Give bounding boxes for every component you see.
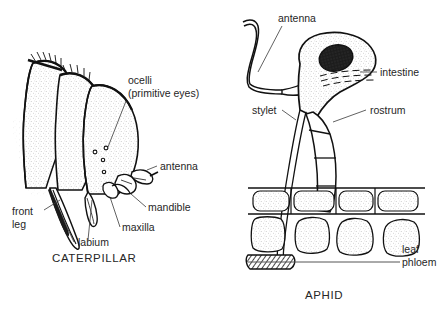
front-leg-label-line2: leg bbox=[12, 218, 26, 230]
epidermis-cell bbox=[294, 191, 334, 211]
labium-label: labium bbox=[78, 236, 109, 248]
stylet-label: stylet bbox=[252, 104, 277, 116]
aphid-caption: APHID bbox=[305, 289, 343, 301]
rostrum-label: rostrum bbox=[370, 104, 406, 116]
ocelli-label-line2: (primitive eyes) bbox=[128, 87, 199, 99]
caterpillar-antenna-label: antenna bbox=[160, 160, 198, 172]
epidermis-cell bbox=[339, 191, 373, 211]
mandible-label: mandible bbox=[148, 201, 191, 213]
mesophyll-cell bbox=[251, 217, 285, 252]
leaf-phloem-label-line1: leaf bbox=[402, 243, 419, 255]
caterpillar-caption: CATERPILLAR bbox=[52, 252, 136, 264]
front-leg-label-line1: front bbox=[12, 205, 33, 217]
aphid-antenna-label: antenna bbox=[278, 12, 316, 24]
epidermis-cell bbox=[378, 191, 418, 211]
mesophyll-cell bbox=[337, 218, 373, 255]
leaf-phloem-label-line2: phloem bbox=[402, 256, 437, 268]
leaf-epidermis-layer bbox=[248, 188, 425, 214]
ocelli-label-line1: ocelli bbox=[128, 74, 152, 86]
maxilla-label: maxilla bbox=[122, 221, 155, 233]
epidermis-cell bbox=[253, 191, 289, 211]
insect-mouthparts-figure: ocelli (primitive eyes) antenna mandible… bbox=[0, 0, 445, 312]
intestine-label: intestine bbox=[380, 66, 419, 78]
mesophyll-cell bbox=[295, 217, 329, 253]
